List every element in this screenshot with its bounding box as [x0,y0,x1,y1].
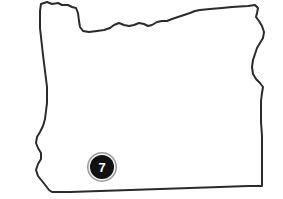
state-outline-icon [36,2,264,192]
map-svg: 7 [0,0,283,199]
map-marker-7[interactable]: 7 [87,152,117,182]
marker-label: 7 [98,160,105,175]
map-canvas: 7 [0,0,283,199]
